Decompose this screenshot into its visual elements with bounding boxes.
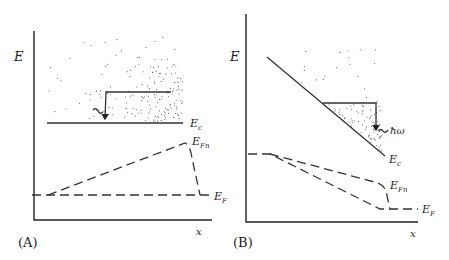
panel-b-label: (B)	[233, 235, 253, 250]
panel-b-conduction-band-edge	[267, 57, 385, 156]
panel-b: E x (B) Ec ħω EF EFn	[229, 14, 436, 250]
panel-a-photon-wiggle-icon	[93, 109, 103, 114]
panel-b-electron-distribution	[301, 49, 383, 151]
panel-a-ec-label: Ec	[189, 117, 202, 132]
panel-b-quasi-fermi-level	[270, 154, 390, 209]
panel-a-relaxation-arrow	[105, 92, 171, 119]
panel-a: E x (A) Ec EF EFn	[13, 31, 228, 250]
panel-a-axes	[34, 31, 212, 220]
panel-a-label: (A)	[18, 235, 38, 250]
panel-b-photon-wiggle-icon	[378, 130, 388, 133]
panel-b-ef-label: EF	[421, 203, 436, 218]
panel-a-electron-distribution	[49, 37, 184, 122]
panel-a-quasi-fermi-level	[48, 143, 200, 195]
panel-a-efn-label: EFn	[191, 135, 210, 150]
panel-b-photon-label: ħω	[390, 125, 405, 136]
diagram-canvas: E x (A) Ec EF EFn E x (B) Ec ħω EF	[0, 0, 449, 260]
panel-b-efn-label: EFn	[389, 179, 408, 194]
panel-a-y-axis-label: E	[13, 49, 24, 64]
panel-a-x-axis-label: x	[196, 226, 202, 237]
panel-b-y-axis-label: E	[229, 49, 240, 64]
panel-b-ec-label: Ec	[388, 153, 401, 168]
panel-a-ef-label: EF	[213, 190, 228, 205]
panel-b-x-axis-label: x	[410, 228, 416, 239]
